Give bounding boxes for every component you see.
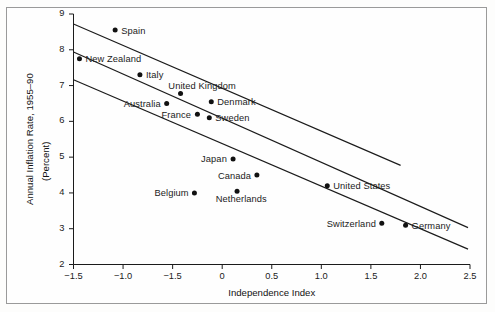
- point-label: Australia: [124, 99, 161, 109]
- x-tick-label: 1.5: [351, 271, 391, 281]
- data-point: [235, 189, 240, 194]
- point-label: Switzerland: [327, 219, 376, 229]
- data-point: [207, 115, 212, 120]
- point-label: Germany: [412, 221, 451, 231]
- x-tick-label: 0.5: [252, 271, 292, 281]
- data-point: [209, 99, 214, 104]
- y-tick-label: 9: [49, 8, 65, 18]
- data-point: [403, 223, 408, 228]
- figure-panel: 98765432 −1.5−1.0−1.500.51.01.52.02.5 Sp…: [0, 0, 495, 312]
- x-axis-ticks: [74, 265, 471, 270]
- y-tick-label: 4: [49, 187, 65, 197]
- y-tick-label: 3: [49, 223, 65, 233]
- x-tick-label: −1.5: [153, 271, 193, 281]
- x-tick-label: −1.0: [103, 271, 143, 281]
- y-tick-label: 2: [49, 259, 65, 269]
- y-axis-ticks: [69, 14, 74, 265]
- point-label: Italy: [146, 70, 164, 80]
- scatter-plot-canvas: [0, 0, 495, 312]
- point-label: New Zealand: [85, 54, 141, 64]
- data-point: [379, 221, 384, 226]
- y-tick-label: 6: [49, 115, 65, 125]
- x-tick-label: 2.5: [450, 271, 490, 281]
- data-point: [178, 91, 183, 96]
- point-label: Sweden: [215, 113, 249, 123]
- point-label: Spain: [121, 26, 145, 36]
- x-tick-label: 0: [202, 271, 242, 281]
- x-tick-label: −1.5: [54, 271, 94, 281]
- point-label: France: [161, 110, 191, 120]
- x-tick-label: 1.0: [301, 271, 341, 281]
- axis-lines: [74, 14, 471, 265]
- data-point: [77, 56, 82, 61]
- point-label: United Kingdom: [168, 81, 236, 91]
- point-label: Canada: [218, 171, 251, 181]
- x-tick-label: 2.0: [400, 271, 440, 281]
- point-label: Belgium: [154, 188, 188, 198]
- data-point: [195, 112, 200, 117]
- data-point: [137, 72, 142, 77]
- x-axis-title: Independence Index: [228, 287, 315, 298]
- data-point: [231, 156, 236, 161]
- trend-line-fit-line: [74, 52, 469, 228]
- y-tick-label: 8: [49, 44, 65, 54]
- point-label: Denmark: [217, 97, 255, 107]
- data-point: [164, 101, 169, 106]
- data-point: [113, 28, 118, 33]
- y-axis-title-line2: (Percent): [40, 141, 51, 180]
- y-axis-title-line1: Annual Inflation Rate, 1955–90: [24, 73, 35, 205]
- point-label: United States: [333, 181, 390, 191]
- point-label: Netherlands: [216, 194, 267, 204]
- data-point: [325, 183, 330, 188]
- data-point: [192, 190, 197, 195]
- y-tick-label: 7: [49, 80, 65, 90]
- trend-line-upper-band: [74, 24, 401, 165]
- point-label: Japan: [201, 154, 227, 164]
- data-point: [254, 173, 259, 178]
